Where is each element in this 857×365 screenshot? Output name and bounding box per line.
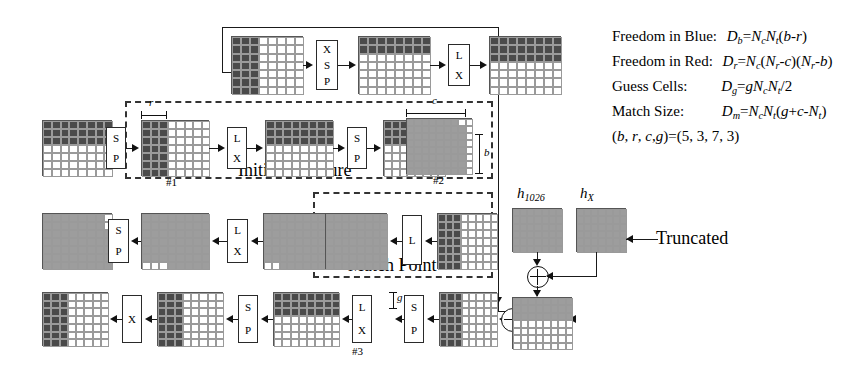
op-label: L <box>234 225 241 236</box>
label-hx: hX <box>580 185 594 203</box>
arrow-r1-2 <box>349 61 356 69</box>
matrix-r4-3 <box>273 292 339 346</box>
label-dim-r: r <box>149 96 153 108</box>
matrix-r1-1 <box>231 36 303 94</box>
matrix-node2 <box>406 118 472 174</box>
op-lx-r3[interactable]: L X <box>227 219 248 263</box>
equation-row-red: Freedom in Red: Dr=Nc(Nr-c)(Nr-b) <box>612 53 833 71</box>
op-label: S <box>113 133 119 144</box>
eq-name: Freedom in Blue: <box>612 28 717 44</box>
matrix-r4-2 <box>157 292 223 346</box>
op-label: L <box>359 302 366 313</box>
op-label: X <box>323 44 331 55</box>
matrix-r2-3 <box>265 120 333 176</box>
eq-name: Freedom in Red: <box>612 53 713 69</box>
feedback-line-top <box>222 27 498 28</box>
param-values: (5, 3, 7, 3) <box>677 128 740 144</box>
matrix-r4-5 <box>439 292 497 346</box>
param-symbols: (b, r, c,g) <box>612 128 668 144</box>
op-lx-r2-1[interactable]: L X <box>227 127 247 169</box>
op-sp-r3-1[interactable]: S P <box>108 219 129 263</box>
arrow-r1-4 <box>480 61 487 69</box>
line-hx-down <box>596 252 597 276</box>
op-sp-r2-2[interactable]: S P <box>347 127 367 169</box>
label-node2: #2 <box>433 174 444 186</box>
eq-name: Match Size: <box>612 103 684 119</box>
op-label: P <box>354 153 360 164</box>
measure-b <box>474 134 484 174</box>
op-label: P <box>245 325 251 336</box>
arrow-r2-2 <box>132 144 139 152</box>
matrix-hx <box>576 208 626 252</box>
line-hx-to-xor <box>547 276 597 277</box>
op-label: X <box>128 314 136 325</box>
label-dim-c: c <box>432 94 437 106</box>
label-node3: #3 <box>352 345 363 357</box>
parameters-line: (b, r, c,g)=(5, 3, 7, 3) <box>612 128 739 145</box>
equation-row-blue: Freedom in Blue: Db=NcNt(b-r) <box>612 28 807 46</box>
op-label: L <box>234 133 241 144</box>
matrix-r2-1 <box>42 120 112 176</box>
arrow-r2-4 <box>256 144 263 152</box>
matrix-output <box>512 297 572 349</box>
op-sp-r2-1[interactable]: S P <box>106 127 126 169</box>
line-r3-3 <box>217 241 227 242</box>
arrow-r2-6 <box>374 144 381 152</box>
op-label: S <box>324 60 330 71</box>
label-dim-b: b <box>484 146 490 158</box>
eq-expr: Dm=NcNt(g+c-Nt) <box>722 103 827 119</box>
op-l-r3[interactable]: L <box>402 215 422 265</box>
label-h1026: h1026 <box>517 185 545 203</box>
op-sp-r4-2[interactable]: S P <box>404 295 424 343</box>
arrow-r1-3 <box>439 61 446 69</box>
op-label: S <box>354 133 360 144</box>
op-label: X <box>358 325 366 336</box>
equation-row-guess: Guess Cells: Dg=gNcNt/2 <box>612 78 792 96</box>
matrix-match-left <box>325 213 387 269</box>
label-dim-g: g <box>397 291 403 303</box>
op-label: S <box>245 302 251 313</box>
measure-c <box>406 108 466 118</box>
matrix-r4-1 <box>42 292 108 346</box>
figure-canvas: X S P L X Initial Structure S P r #1 L X <box>0 0 857 365</box>
matrix-r3-3 <box>263 213 325 269</box>
op-label: P <box>115 246 121 257</box>
op-label: X <box>234 246 242 257</box>
op-xsp-r1[interactable]: X S P <box>316 40 338 90</box>
op-label: L <box>456 50 463 61</box>
op-lx-r4[interactable]: L X <box>352 295 372 343</box>
feedback-line-left <box>222 27 223 72</box>
arrow-r2-3 <box>218 144 225 152</box>
op-sp-r4-1[interactable]: S P <box>238 295 258 343</box>
arrow-truncated <box>626 235 633 243</box>
op-label: X <box>455 70 463 81</box>
eq-expr: Dg=gNcNt/2 <box>721 78 792 94</box>
equation-row-match: Match Size: Dm=NcNt(g+c-Nt) <box>612 103 826 121</box>
op-label: L <box>409 235 416 246</box>
arrow-h1026-down <box>533 259 541 266</box>
label-node1: #1 <box>166 176 177 188</box>
matrix-match-right <box>437 213 497 269</box>
matrix-r1-3 <box>489 36 561 94</box>
op-lx-r1[interactable]: L X <box>448 44 470 86</box>
measure-r <box>141 110 167 120</box>
op-label: X <box>233 153 241 164</box>
op-label: P <box>113 153 119 164</box>
op-label: P <box>324 76 330 87</box>
eq-expr: Db=NcNt(b-r) <box>727 28 807 44</box>
eq-expr: Dr=Nc(Nr-c)(Nr-b) <box>723 53 833 69</box>
arrow-r2-5 <box>338 144 345 152</box>
op-label: S <box>115 225 121 236</box>
matrix-h1026 <box>512 208 562 252</box>
param-equals: = <box>668 128 676 144</box>
truncated-label: Truncated <box>656 228 728 249</box>
matrix-r3-1 <box>42 213 112 269</box>
matrix-r1-2 <box>358 36 430 94</box>
op-x-r4[interactable]: X <box>122 295 142 343</box>
arrow-hx-to-xor <box>546 272 553 280</box>
matrix-r3-2 <box>141 213 209 269</box>
op-label: P <box>411 325 417 336</box>
eq-name: Guess Cells: <box>612 78 687 94</box>
arrow-xor-out <box>533 290 541 297</box>
matrix-node1 <box>141 120 209 176</box>
